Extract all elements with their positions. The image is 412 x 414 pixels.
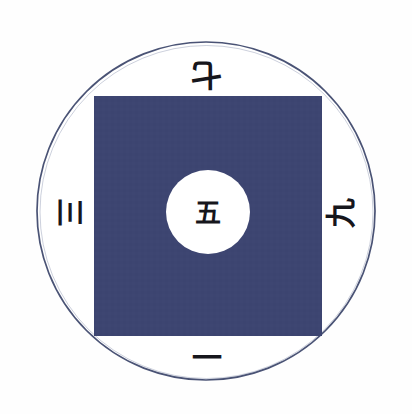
label-center-five: 五 xyxy=(186,192,230,234)
label-top-seven: 七 xyxy=(183,54,229,96)
label-right-nine: 九 xyxy=(319,190,363,236)
figure-canvas: 七 三 九 一 五 xyxy=(0,0,412,414)
label-left-three: 三 xyxy=(47,189,91,235)
label-bottom-one: 一 xyxy=(184,338,230,378)
